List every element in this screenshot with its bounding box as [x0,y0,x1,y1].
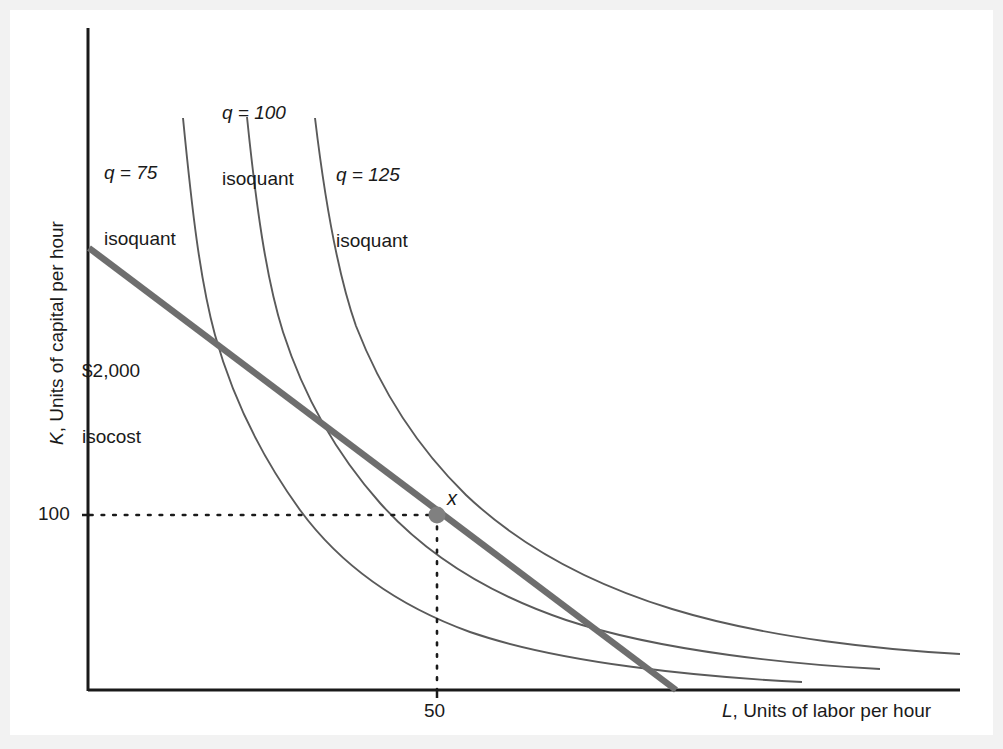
isocost-label: $2,000 isocost [82,316,141,492]
isoquant-label-q75: q = 75 isoquant [104,118,176,294]
isoquant-label-q100: q = 100 isoquant [222,58,294,234]
y-axis-label-symbol: K [46,432,67,445]
isoquant-label-q125: q = 125 isoquant [336,120,408,296]
tangency-point-marker [429,507,446,524]
isoquant-curve-q125 [315,118,960,654]
y-axis-label: K, Units of capital per hour [46,183,68,483]
isoquant-label-q125-line2: isoquant [336,230,408,252]
isocost-label-line1: $2,000 [82,360,141,382]
x-axis-label-symbol: L [722,700,733,721]
x-tick-label-50: 50 [424,700,445,722]
isocost-label-line2: isocost [82,426,141,448]
isoquant-isocost-figure: K, Units of capital per hour L, Units of… [0,0,1003,749]
isoquant-label-q125-line1: q = 125 [336,164,408,186]
tangency-point-label: x [447,487,457,509]
x-axis-label-text: , Units of labor per hour [733,700,932,721]
plot-canvas [0,0,1003,749]
isoquant-label-q100-line1: q = 100 [222,102,294,124]
y-tick-label-100: 100 [38,503,70,525]
isoquant-label-q75-line1: q = 75 [104,162,176,184]
y-axis-label-text: , Units of capital per hour [46,221,67,432]
isoquant-label-q100-line2: isoquant [222,168,294,190]
isoquant-label-q75-line2: isoquant [104,228,176,250]
x-axis-label: L, Units of labor per hour [722,700,931,722]
isocost-line [89,248,676,690]
